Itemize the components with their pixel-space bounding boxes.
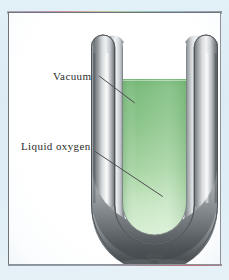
- vacuum-cavity: [123, 43, 186, 79]
- figure-frame: Vacuum Liquid oxygen: [8, 12, 221, 265]
- liquid-oxygen-body: [123, 78, 187, 235]
- figure-root: Vacuum Liquid oxygen: [0, 0, 229, 280]
- bottom-pip-base: [145, 252, 163, 260]
- wall-shadow-right: [215, 53, 217, 203]
- liquid-surface-highlight: [123, 80, 187, 81]
- liquid-side-shading: [123, 79, 187, 235]
- wall-shadow-left: [93, 53, 95, 203]
- annotation-label-vacuum: Vacuum: [53, 71, 91, 82]
- u-tube-dewar-apparatus: [9, 13, 221, 265]
- wall-highlight-right: [206, 53, 209, 203]
- annotation-label-liquid-oxygen: Liquid oxygen: [21, 141, 91, 152]
- wall-highlight-left: [106, 53, 109, 203]
